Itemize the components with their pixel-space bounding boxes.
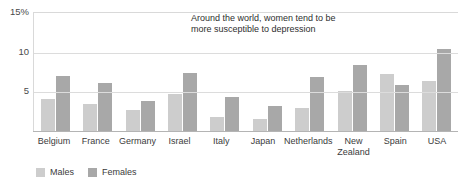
bar-belgium-males	[41, 99, 55, 131]
x-axis-label-usa: USA	[416, 134, 458, 160]
y-axis: 15%105	[0, 0, 33, 140]
bar-france-females	[98, 83, 112, 131]
bar-israel-males	[168, 94, 182, 131]
legend-label: Females	[102, 168, 137, 177]
x-axis-label-italy: Italy	[200, 134, 242, 160]
bar-germany-males	[126, 110, 140, 131]
bar-france-males	[83, 104, 97, 131]
bar-group	[416, 13, 458, 131]
legend-label: Males	[50, 168, 74, 177]
x-axis-label-japan: Japan	[242, 134, 284, 160]
bar-germany-females	[141, 101, 155, 131]
x-axis-label-netherlands: Netherlands	[284, 134, 333, 160]
bar-netherlands-males	[295, 108, 309, 131]
bar-chart-figure: 15%105 BelgiumFranceGermanyIsraelItalyJa…	[0, 0, 458, 186]
bar-italy-males	[210, 117, 224, 131]
x-axis-label-spain: Spain	[374, 134, 416, 160]
x-axis-baseline	[33, 131, 458, 132]
bar-belgium-females	[56, 76, 70, 131]
bar-netherlands-females	[310, 77, 324, 131]
y-axis-tick-label: 10	[18, 47, 29, 57]
bar-usa-females	[437, 49, 451, 131]
gridline	[34, 53, 458, 54]
bar-group	[34, 13, 76, 131]
bar-japan-males	[253, 119, 267, 131]
bar-israel-females	[183, 73, 197, 131]
legend-item-females[interactable]: Females	[88, 168, 137, 177]
x-axis-label-germany: Germany	[117, 134, 159, 160]
x-axis-label-france: France	[75, 134, 117, 160]
bar-group	[373, 13, 415, 131]
gridline	[34, 92, 458, 93]
y-axis-tick-label: 5	[24, 86, 29, 96]
bar-new-zealand-males	[338, 91, 352, 131]
bar-italy-females	[225, 97, 239, 131]
x-axis-label-belgium: Belgium	[33, 134, 75, 160]
x-axis-label-israel: Israel	[158, 134, 200, 160]
x-axis-labels: BelgiumFranceGermanyIsraelItalyJapanNeth…	[33, 134, 458, 160]
bar-japan-females	[268, 106, 282, 131]
legend-swatch-icon	[88, 168, 97, 177]
bar-usa-males	[422, 81, 436, 131]
bar-group	[119, 13, 161, 131]
legend-item-males[interactable]: Males	[36, 168, 74, 177]
bar-group	[76, 13, 118, 131]
bar-spain-males	[380, 74, 394, 131]
legend-swatch-icon	[36, 168, 45, 177]
chart-annotation: Around the world, women tend to be more …	[191, 13, 341, 35]
x-axis-label-new-zealand: New Zealand	[333, 134, 375, 160]
chart-legend: MalesFemales	[36, 168, 137, 177]
bar-new-zealand-females	[353, 65, 367, 131]
y-axis-tick-label: 15%	[10, 7, 29, 17]
